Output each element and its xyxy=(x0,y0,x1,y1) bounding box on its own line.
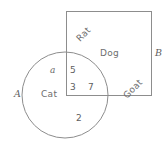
count-intersection-bottom-right: 7 xyxy=(88,83,94,92)
count-intersection-top: 5 xyxy=(70,66,76,75)
venn-shapes xyxy=(0,0,166,144)
count-intersection-bottom-left: 3 xyxy=(70,83,76,92)
region-label-cat: Cat xyxy=(41,90,57,99)
set-label-b: B xyxy=(155,48,162,58)
region-label-element-a: a xyxy=(50,66,56,75)
region-label-dog: Dog xyxy=(100,49,119,58)
venn-diagram-canvas: A B Rat Dog Goat a Cat 5 3 7 2 xyxy=(0,0,166,144)
count-circle-only-bottom: 2 xyxy=(76,114,82,123)
set-label-a: A xyxy=(14,89,21,99)
